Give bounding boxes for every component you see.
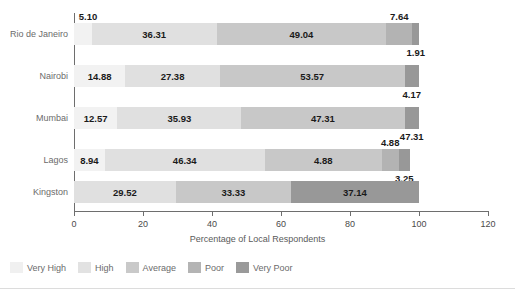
segment-value-label: 35.93 [167, 113, 191, 124]
bar-segment[interactable] [386, 23, 412, 45]
segment-value-label: 29.52 [113, 187, 137, 198]
bar-segment[interactable]: 33.33 [176, 181, 291, 203]
x-tick [350, 211, 351, 216]
bar-segment[interactable]: 29.52 [74, 181, 176, 203]
x-tick-label: 100 [411, 219, 426, 229]
x-tick-label: 20 [138, 219, 148, 229]
bar-segment[interactable]: 14.88 [74, 65, 125, 87]
segment-value-label: 4.17 [403, 89, 422, 100]
legend-label: Poor [205, 263, 224, 273]
segment-value-label: 46.34 [173, 155, 197, 166]
bar-segment[interactable] [399, 149, 410, 171]
category-label-kingston: Kingston [0, 187, 68, 197]
x-tick-label: 120 [480, 219, 495, 229]
bar-segment[interactable] [412, 23, 419, 45]
legend-swatch [78, 262, 91, 273]
bar-row: Nairobi14.8827.3853.57 [0, 65, 515, 87]
x-axis-title: Percentage of Local Respondents [0, 234, 515, 244]
x-tick [488, 211, 489, 216]
x-tick [143, 211, 144, 216]
x-tick-label: 60 [276, 219, 286, 229]
segment-value-label: 14.88 [88, 71, 112, 82]
bar-segment[interactable]: 27.38 [125, 65, 219, 87]
bar-segment[interactable] [405, 65, 419, 87]
category-label-rio-de-janeiro: Rio de Janeiro [0, 29, 68, 39]
bar-row: Rio de Janeiro36.3149.04 [0, 23, 515, 45]
bar-row: Kingston29.5233.3337.14 [0, 181, 515, 203]
legend-item-very-poor[interactable]: Very Poor [236, 262, 293, 273]
segment-value-label: 53.57 [300, 71, 324, 82]
segment-value-label: 5.10 [79, 11, 98, 22]
bar-segment[interactable]: 47.31 [241, 107, 404, 129]
bar-segment[interactable]: 53.57 [220, 65, 405, 87]
bar-row: Mumbai12.5735.9347.31 [0, 107, 515, 129]
legend-swatch [126, 262, 139, 273]
segment-value-label: 8.94 [80, 155, 99, 166]
legend-swatch [236, 262, 249, 273]
segment-value-label: 4.88 [381, 137, 400, 148]
x-tick-label: 40 [207, 219, 217, 229]
legend-label: Very High [27, 263, 66, 273]
bar-segment[interactable]: 46.34 [105, 149, 265, 171]
bar-segment[interactable]: 36.31 [92, 23, 217, 45]
bar-segment[interactable]: 8.94 [74, 149, 105, 171]
segment-value-label: 12.57 [84, 113, 108, 124]
bar-segment[interactable]: 12.57 [74, 107, 117, 129]
x-tick [74, 211, 75, 216]
category-label-lagos: Lagos [0, 155, 68, 165]
legend-label: High [95, 263, 114, 273]
category-label-nairobi: Nairobi [0, 71, 68, 81]
legend-swatch [10, 262, 23, 273]
x-tick-label: 80 [345, 219, 355, 229]
legend-item-average[interactable]: Average [126, 262, 176, 273]
segment-value-label: 49.04 [290, 29, 314, 40]
legend-item-poor[interactable]: Poor [188, 262, 224, 273]
bar-segment[interactable]: 37.14 [291, 181, 419, 203]
bar-segment[interactable] [382, 149, 399, 171]
chart-legend: Very HighHighAveragePoorVery Poor [10, 262, 299, 273]
x-tick [212, 211, 213, 216]
segment-value-label: 4.88 [314, 155, 333, 166]
segment-value-label: 33.33 [221, 187, 245, 198]
segment-value-label: 36.31 [142, 29, 166, 40]
legend-label: Very Poor [253, 263, 293, 273]
segment-value-label: 27.38 [161, 71, 185, 82]
bottom-divider [0, 288, 515, 289]
x-tick-label: 0 [71, 219, 76, 229]
stacked-bar-chart: 020406080100120 5.107.641.91Rio de Janei… [0, 0, 515, 291]
category-label-mumbai: Mumbai [0, 113, 68, 123]
bar-segment[interactable] [74, 23, 92, 45]
segment-value-label: 47.31 [311, 113, 335, 124]
legend-item-high[interactable]: High [78, 262, 114, 273]
bar-row: Lagos8.9446.344.88 [0, 149, 515, 171]
segment-value-label: 37.14 [343, 187, 367, 198]
bar-segment[interactable]: 35.93 [117, 107, 241, 129]
segment-value-label: 1.91 [406, 47, 425, 58]
legend-label: Average [143, 263, 176, 273]
bar-segment[interactable] [405, 107, 419, 129]
segment-value-label: 7.64 [390, 11, 409, 22]
bar-segment[interactable]: 49.04 [217, 23, 386, 45]
x-tick [281, 211, 282, 216]
segment-value-label: 47.31 [400, 131, 424, 142]
x-tick [419, 211, 420, 216]
legend-swatch [188, 262, 201, 273]
legend-item-very-high[interactable]: Very High [10, 262, 66, 273]
bar-segment[interactable]: 4.88 [265, 149, 382, 171]
